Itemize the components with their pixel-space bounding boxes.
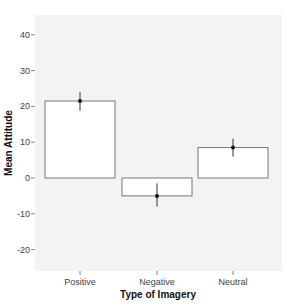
y-tick-label: -10 bbox=[17, 209, 30, 219]
y-axis: -20-10010203040 bbox=[17, 30, 35, 255]
x-axis: PositiveNegativeNeutral bbox=[64, 271, 247, 287]
bar-chart: -20-10010203040 PositiveNegativeNeutral … bbox=[0, 0, 287, 308]
bar-positive bbox=[45, 101, 115, 178]
y-axis-title: Mean Attitude bbox=[3, 110, 14, 176]
mean-point bbox=[155, 194, 159, 198]
x-tick-label: Neutral bbox=[218, 277, 247, 287]
x-tick-label: Negative bbox=[139, 277, 175, 287]
x-axis-title: Type of Imagery bbox=[120, 289, 196, 300]
y-tick-label: 40 bbox=[20, 30, 30, 40]
y-tick-label: -20 bbox=[17, 245, 30, 255]
y-tick-label: 0 bbox=[25, 173, 30, 183]
y-tick-label: 20 bbox=[20, 101, 30, 111]
mean-point bbox=[231, 146, 235, 150]
y-tick-label: 10 bbox=[20, 137, 30, 147]
mean-point bbox=[78, 99, 82, 103]
x-tick-label: Positive bbox=[64, 277, 96, 287]
y-tick-label: 30 bbox=[20, 66, 30, 76]
